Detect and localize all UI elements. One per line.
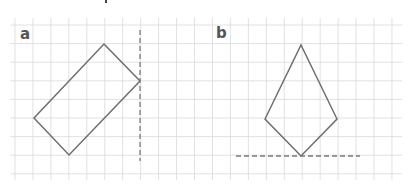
kite-shape-b	[265, 45, 337, 156]
cropped-text-fragment	[105, 0, 107, 3]
panel-label-b: b	[216, 26, 227, 41]
grid-diagram	[0, 0, 414, 188]
panel-label-a: a	[20, 27, 30, 42]
